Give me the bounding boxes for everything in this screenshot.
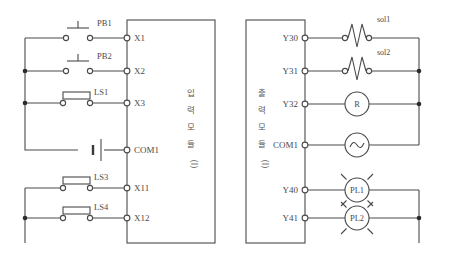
sol2-coil bbox=[348, 57, 366, 80]
input-module-label-char-4: (I) bbox=[189, 159, 199, 168]
terminal-x1-label: X1 bbox=[134, 33, 145, 43]
ls3-right-contact bbox=[87, 185, 92, 190]
output-junction-y31 bbox=[417, 69, 422, 74]
pl1-label: PL1 bbox=[350, 185, 364, 195]
device-ac-source bbox=[308, 133, 419, 157]
terminal-y32-label: Y32 bbox=[283, 99, 299, 109]
device-dc-source bbox=[93, 139, 127, 161]
terminal-x12-label: X12 bbox=[134, 213, 150, 223]
device-pb2: PB2 bbox=[63, 51, 127, 74]
terminal-y31-label: Y31 bbox=[283, 66, 299, 76]
terminal-y40 bbox=[302, 187, 308, 193]
pb2-label: PB2 bbox=[97, 51, 112, 61]
terminal-x1 bbox=[124, 35, 130, 41]
pb2-left-contact bbox=[63, 68, 68, 73]
input-junction-x3 bbox=[23, 101, 28, 106]
output-junction-y41 bbox=[417, 216, 422, 221]
input-junction-x2 bbox=[23, 69, 28, 74]
input-module-label-char-1: 력 bbox=[187, 105, 195, 115]
device-sol2: sol2 bbox=[308, 48, 419, 80]
ls4-actuator-box bbox=[63, 207, 90, 214]
output-module-label-char-0: 출 bbox=[258, 88, 266, 98]
plc-wiring-diagram: 입 력 모 듈 (I) PB1 PB2 LS1 bbox=[0, 0, 451, 263]
output-terminals: Y30 Y31 Y32 COM1 Y40 Y41 bbox=[273, 33, 308, 223]
terminal-x3-label: X3 bbox=[134, 98, 145, 108]
device-pl2: PL2 bbox=[308, 202, 419, 234]
ls1-left-contact bbox=[60, 100, 65, 105]
input-module-label-char-2: 모 bbox=[187, 122, 195, 132]
output-module-label-char-3: 듈 bbox=[258, 139, 266, 149]
device-ls1: LS1 bbox=[60, 87, 127, 106]
sol1-left-contact bbox=[342, 35, 347, 40]
device-sol1: sol1 bbox=[308, 15, 419, 47]
ls1-label: LS1 bbox=[94, 87, 108, 97]
terminal-y30 bbox=[302, 35, 308, 41]
pb1-left-contact bbox=[63, 35, 68, 40]
terminal-x2 bbox=[124, 68, 130, 74]
terminal-x11 bbox=[124, 185, 130, 191]
output-module-label: 출 력 모 듈 (I) bbox=[258, 88, 270, 169]
sol2-left-contact bbox=[342, 68, 347, 73]
terminal-com1-output-label: COM1 bbox=[273, 140, 298, 150]
sol1-coil bbox=[348, 24, 366, 47]
terminal-x2-label: X2 bbox=[134, 66, 145, 76]
terminal-com1-input-label: COM1 bbox=[134, 145, 159, 155]
terminal-x11-label: X11 bbox=[134, 183, 149, 193]
input-module-box bbox=[127, 20, 215, 243]
terminal-y32 bbox=[302, 101, 308, 107]
ls3-label: LS3 bbox=[94, 172, 108, 182]
device-relay-r: R bbox=[308, 92, 419, 116]
terminal-x12 bbox=[124, 215, 130, 221]
pb1-right-contact bbox=[87, 35, 92, 40]
terminal-y30-label: Y30 bbox=[283, 33, 299, 43]
terminal-x3 bbox=[124, 100, 130, 106]
sol2-right-contact bbox=[366, 68, 371, 73]
terminal-y40-label: Y40 bbox=[283, 185, 299, 195]
sol1-label: sol1 bbox=[377, 15, 390, 24]
output-module-box bbox=[246, 20, 305, 243]
device-pl1: PL1 bbox=[308, 174, 419, 206]
device-ls3: LS3 bbox=[60, 172, 127, 191]
ls1-right-contact bbox=[87, 100, 92, 105]
ls4-right-contact bbox=[87, 215, 92, 220]
device-pb1: PB1 bbox=[63, 18, 127, 41]
input-junction-x12 bbox=[23, 216, 28, 221]
ls1-actuator-box bbox=[63, 92, 90, 99]
input-module-label: 입 력 모 듈 (I) bbox=[187, 88, 199, 169]
input-terminals: X1 X2 X3 COM1 X11 X12 bbox=[124, 33, 159, 223]
input-module-label-char-3: 듈 bbox=[187, 139, 195, 149]
output-module-label-char-2: 모 bbox=[258, 122, 266, 132]
device-ls4: LS4 bbox=[60, 202, 127, 221]
terminal-y41 bbox=[302, 215, 308, 221]
input-module-label-char-0: 입 bbox=[187, 88, 195, 98]
ls4-left-contact bbox=[60, 215, 65, 220]
output-module-label-char-1: 력 bbox=[258, 105, 266, 115]
terminal-y31 bbox=[302, 68, 308, 74]
output-junction-y32 bbox=[417, 102, 422, 107]
pb1-label: PB1 bbox=[97, 18, 112, 28]
ls3-actuator-box bbox=[63, 177, 90, 184]
ls3-left-contact bbox=[60, 185, 65, 190]
terminal-com1-input bbox=[124, 147, 130, 153]
terminal-com1-output bbox=[302, 142, 308, 148]
ls4-label: LS4 bbox=[94, 202, 109, 212]
relay-label: R bbox=[354, 99, 360, 109]
output-module-label-char-4: (I) bbox=[260, 159, 270, 168]
sol1-right-contact bbox=[366, 35, 371, 40]
terminal-y41-label: Y41 bbox=[283, 213, 299, 223]
sol2-label: sol2 bbox=[377, 48, 390, 57]
pl2-label: PL2 bbox=[350, 213, 364, 223]
pb2-right-contact bbox=[87, 68, 92, 73]
